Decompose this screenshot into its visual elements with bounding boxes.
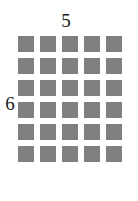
grid-cell [18,146,34,162]
grid-cell [84,102,100,118]
row-count-label: 6 [2,94,18,114]
grid-cell [62,102,78,118]
grid-cell [106,124,122,140]
grid-cell [106,58,122,74]
grid-cell [40,102,56,118]
grid-cell [40,36,56,52]
grid-cell [106,146,122,162]
grid-cell [84,124,100,140]
grid-cell [40,80,56,96]
grid-cell [84,146,100,162]
grid-cell [62,36,78,52]
grid-cell [62,146,78,162]
grid-cell [40,146,56,162]
grid-cell [40,124,56,140]
grid-cell [62,124,78,140]
grid-cell [18,124,34,140]
grid-cell [62,58,78,74]
array-diagram: 5 6 [0,0,138,201]
grid-cell [84,58,100,74]
grid-cell [18,58,34,74]
grid-cell [106,80,122,96]
grid-cell [18,36,34,52]
column-count-label: 5 [0,11,138,31]
grid-cell [106,36,122,52]
grid-cell [62,80,78,96]
grid-cell [106,102,122,118]
grid-cell [18,102,34,118]
grid-cell [84,36,100,52]
grid-cell [18,80,34,96]
square-grid [18,36,122,162]
grid-cell [84,80,100,96]
grid-cell [40,58,56,74]
